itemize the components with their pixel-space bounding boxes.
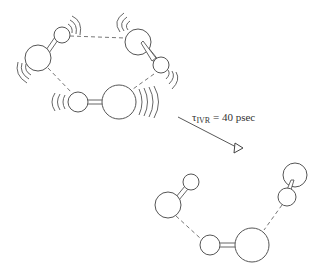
ivr-subscript: IVR <box>196 116 210 125</box>
atom-right-small <box>278 188 296 206</box>
atom-small-bottom <box>68 92 88 112</box>
atom-lower-small <box>200 235 220 255</box>
hbond-top <box>70 36 125 38</box>
hbond-left <box>48 68 72 93</box>
atom-lower-left-large <box>155 192 181 218</box>
atom-large-bottom <box>102 85 136 119</box>
hbond-lower-right <box>264 205 282 230</box>
atom-right-large <box>283 163 307 187</box>
atom-large-left <box>25 45 51 71</box>
ivr-value: = 40 psec <box>210 111 255 123</box>
relaxed-cluster <box>155 163 307 262</box>
excited-cluster <box>17 13 178 119</box>
ivr-time-label: τIVR = 40 psec <box>192 111 255 125</box>
hbond-lower-left <box>176 216 200 238</box>
atom-small-left <box>54 27 70 43</box>
arrow-head-icon <box>234 143 243 153</box>
atom-small-right <box>153 57 169 73</box>
hbond-right <box>133 74 154 89</box>
atom-lower-large <box>235 228 269 262</box>
diagram-canvas <box>0 0 324 274</box>
atom-lower-left-small <box>183 174 199 190</box>
